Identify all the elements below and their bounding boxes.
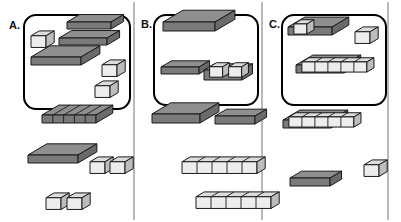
bar-with-two-cubes-cube xyxy=(229,63,249,77)
bar-with-two-cubes xyxy=(204,63,253,80)
figure-canvas: A.B.C. xyxy=(0,0,401,222)
light-cube-row xyxy=(182,157,265,174)
small-bar-front-face xyxy=(290,178,330,186)
slab-with-five-cubes-cubes xyxy=(289,113,361,127)
stepped-slab-upper-front-face xyxy=(67,22,111,29)
big-slab-front-face xyxy=(152,114,200,123)
light-cube-row-body-front-face xyxy=(182,162,257,174)
slab-with-five-cubes-cubes-front-face xyxy=(302,62,367,72)
unit-cube xyxy=(355,27,378,44)
slab-with-five-cubes xyxy=(283,110,361,128)
unit-cube-front-face xyxy=(67,198,82,210)
stepped-slab-upper xyxy=(67,15,124,29)
panel-label-C: C. xyxy=(269,18,280,30)
slab-with-five-cubes xyxy=(296,55,374,73)
unit-cube-front-face xyxy=(90,162,105,174)
panel-C-outside-box-blocks xyxy=(283,110,387,186)
light-cube-row-body xyxy=(196,192,279,209)
small-bar xyxy=(215,109,267,124)
slab-with-five-cubes-cubes xyxy=(302,58,374,72)
unit-cube-front-face xyxy=(102,65,117,77)
light-cube-row-body-top-face xyxy=(196,192,279,197)
panel-label-A: A. xyxy=(9,19,20,31)
small-bar xyxy=(290,171,342,186)
slab-with-five-cubes-cubes-front-face xyxy=(289,117,354,127)
big-slab xyxy=(152,103,219,123)
big-slab xyxy=(28,144,97,163)
small-bar-front-face xyxy=(215,116,255,124)
small-bar-front-face xyxy=(161,67,199,74)
unit-cube-front-face xyxy=(355,32,370,44)
unit-cube xyxy=(95,81,118,98)
stepped-slab-lower-front-face xyxy=(59,38,107,45)
unit-cube xyxy=(67,193,90,210)
stepped-slab-lower xyxy=(59,31,120,45)
slab-with-one-cube-cubes xyxy=(294,20,314,34)
unit-cube-front-face xyxy=(31,36,46,48)
unit-cube-front-face xyxy=(364,165,379,177)
bar-with-two-cubes-cube-front-face xyxy=(229,67,242,77)
big-slab-front-face xyxy=(31,57,81,65)
panel-B-outside-box-blocks xyxy=(152,103,279,209)
panel-A-outside-box-blocks xyxy=(28,105,133,209)
unit-cube xyxy=(364,160,387,177)
light-cube-row-body xyxy=(182,157,265,174)
bar-with-two-cubes-cube-front-face xyxy=(210,67,223,77)
light-cube-row-body-top-face xyxy=(182,157,265,162)
small-bar xyxy=(161,61,210,74)
unit-cube xyxy=(102,60,125,77)
slab-with-five-cubes-cubes-top-face xyxy=(302,58,374,62)
big-slab-front-face xyxy=(28,155,78,163)
block-figure: A.B.C. xyxy=(0,0,401,222)
slab-with-five-cubes-cubes-top-face xyxy=(289,113,361,117)
unit-cube xyxy=(110,157,133,174)
unit-cube-front-face xyxy=(95,86,110,98)
unit-cube xyxy=(46,193,69,210)
unit-cube-front-face xyxy=(46,198,61,210)
bar-with-two-cubes-cube xyxy=(210,63,230,77)
unit-cube-front-face xyxy=(110,162,125,174)
slab-with-one-cube-cubes-front-face xyxy=(294,24,307,34)
big-slab-front-face xyxy=(163,22,215,31)
unit-cube xyxy=(31,31,54,48)
light-cube-row-body-front-face xyxy=(196,197,271,209)
segmented-dark-slab-front-face xyxy=(42,115,96,123)
light-cube-row xyxy=(196,192,279,209)
panel-label-B: B. xyxy=(141,18,152,30)
